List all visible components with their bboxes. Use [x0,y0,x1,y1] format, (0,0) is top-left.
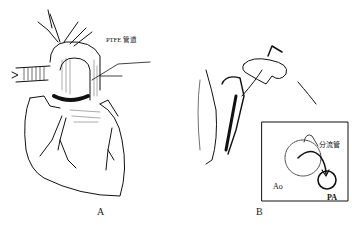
pulmonary-artery-label: PA [327,193,337,202]
aorta-label: Ao [273,182,283,191]
heart-illustration [0,0,352,227]
panel-b-label: B [256,206,263,217]
shunt-tube-label: 分流管 [319,139,340,149]
figure: PTFE 管道 分流管 Ao PA A B [0,0,352,227]
ptfe-conduit-label: PTFE 管道 [106,34,137,44]
panel-a-label: A [97,206,104,217]
